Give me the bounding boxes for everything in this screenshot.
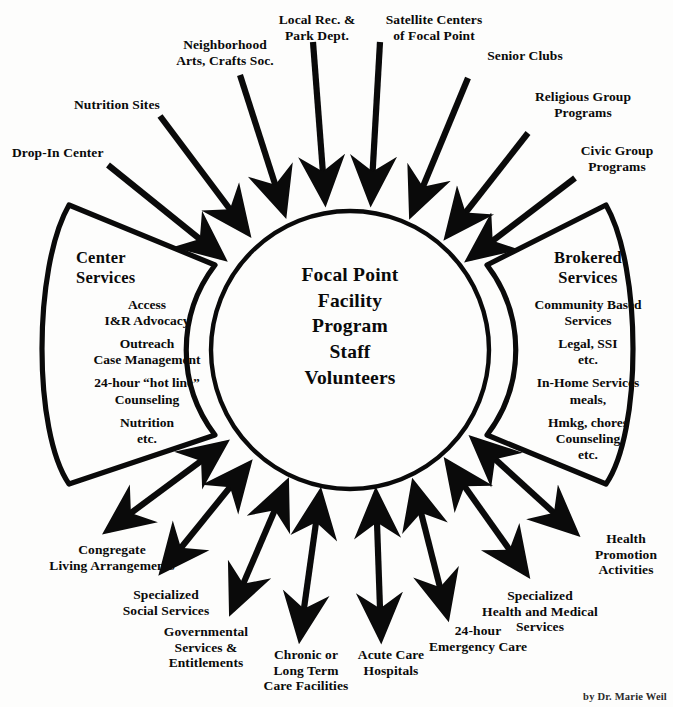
arrow-neighborhood-arts — [240, 75, 284, 212]
label-specialized-health: Specialized Health and Medical Services — [482, 588, 598, 635]
arrow-governmental-services — [232, 484, 286, 610]
wedge-left-group-3: Nutrition etc. — [72, 415, 222, 447]
wedge-left-title-line2: Services — [76, 268, 222, 288]
wedge-right-text: Brokered Services Community Based Servic… — [512, 248, 664, 470]
wedge-left-group-0: Access I&R Advocacy — [72, 297, 222, 329]
core-line-3: Program — [302, 313, 399, 339]
arrow-satellite-centers — [371, 42, 380, 200]
label-health-promotion: Health Promotion Activities — [595, 531, 657, 578]
label-local-rec-park: Local Rec. & Park Dept. — [279, 12, 356, 43]
label-governmental-services: Governmental Services & Entitlements — [164, 624, 248, 671]
label-drop-in-center: Drop-In Center — [12, 145, 104, 161]
label-neighborhood-arts: Neighborhood Arts, Crafts Soc. — [176, 37, 274, 68]
core-line-5: Volunteers — [302, 365, 399, 391]
wedge-right-title-line1: Brokered — [512, 248, 664, 268]
core-line-1: Focal Point — [302, 262, 399, 288]
wedge-right-group-2: In-Home Services meals, — [512, 375, 664, 407]
wedge-left-title-line1: Center — [76, 248, 222, 268]
label-nutrition-sites: Nutrition Sites — [74, 97, 160, 113]
arrow-acute-care — [376, 494, 381, 637]
label-specialized-social: Specialized Social Services — [123, 587, 210, 618]
label-religious-group: Religious Group Programs — [535, 89, 631, 120]
arrow-emergency-care — [414, 485, 447, 615]
label-satellite-centers: Satellite Centers of Focal Point — [386, 12, 483, 43]
focal-point-diagram: Focal Point Facility Program Staff Volun… — [0, 0, 673, 707]
core-line-4: Staff — [302, 339, 399, 365]
wedge-left-text: Center Services Access I&R Advocacy Outr… — [72, 248, 222, 454]
author-credit: by Dr. Marie Weil — [583, 691, 667, 702]
core-line-2: Facility — [302, 288, 399, 314]
label-acute-care: Acute Care Hospitals — [358, 647, 424, 678]
arrow-chronic-long-term — [300, 494, 320, 637]
wedge-left-group-2: 24-hour “hot line” Counseling — [72, 375, 222, 407]
label-chronic-long-term: Chronic or Long Term Care Facilities — [264, 647, 349, 694]
wedge-left-group-1: Outreach Case Management — [72, 336, 222, 368]
arrow-local-rec-park — [313, 42, 325, 200]
wedge-right-group-3: Hmkg, chores Counseling etc. — [512, 415, 664, 464]
arrow-senior-clubs — [412, 78, 468, 213]
wedge-right-group-1: Legal, SSI etc. — [512, 336, 664, 368]
wedge-right-title-line2: Services — [512, 268, 664, 288]
wedge-left-title: Center Services — [72, 248, 222, 288]
label-civic-group: Civic Group Programs — [581, 143, 653, 174]
label-congregate-living: Congregate Living Arrangements — [49, 542, 174, 573]
wedge-right-group-0: Community Based Services — [512, 297, 664, 329]
focal-point-core-text: Focal Point Facility Program Staff Volun… — [302, 262, 399, 391]
wedge-right-title: Brokered Services — [512, 248, 664, 288]
label-senior-clubs: Senior Clubs — [487, 48, 563, 64]
